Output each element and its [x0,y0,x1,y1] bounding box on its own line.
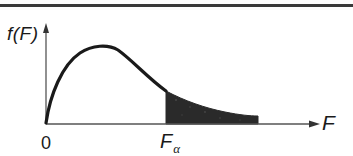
y-axis-label: f(F) [7,24,39,43]
f-distribution-figure: f(F) F 0 Fα [0,0,353,156]
shaded-tail-region [166,91,258,124]
critical-value-label: Fα [160,131,180,155]
density-curve [46,46,166,123]
critical-value-subscript: α [173,141,180,156]
x-axis-label: F [322,112,335,133]
critical-value-symbol: F [160,130,172,152]
origin-tick-label: 0 [41,134,51,152]
y-axis-arrow-icon [43,23,49,33]
x-axis-arrow-icon [309,121,320,128]
